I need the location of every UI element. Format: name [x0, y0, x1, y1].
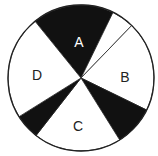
label-b: B [120, 69, 129, 85]
label-a: A [74, 34, 84, 50]
label-d: D [32, 67, 42, 83]
spinner-diagram: A B C D [0, 0, 158, 156]
label-c: C [73, 118, 83, 134]
